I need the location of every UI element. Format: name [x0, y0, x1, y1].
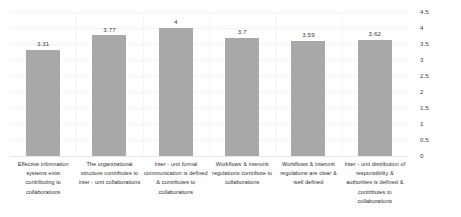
bar-value-label: 3.59	[302, 32, 314, 38]
axis-tick-label: 1.5	[420, 105, 429, 111]
bar-group: 3.62	[342, 12, 408, 156]
axis-tick-label: 4.5	[420, 9, 429, 15]
bar-group: 3.59	[275, 12, 341, 156]
bar-value-label: 3.77	[103, 27, 115, 33]
bar-group: 3.7	[209, 12, 275, 156]
gridline	[10, 156, 408, 157]
category-label: Workflows & interunit regulations contri…	[209, 160, 275, 188]
bar-value-label: 3.62	[369, 31, 381, 37]
bar-value-label: 4	[174, 19, 178, 25]
bar-group: 4	[143, 12, 209, 156]
category-label: The organizational structure contributes…	[76, 160, 142, 188]
axis-tick-label: 2	[420, 89, 423, 95]
category-label: Workflows & interunit regulations are cl…	[275, 160, 341, 188]
axis-tick-label: 3	[420, 57, 423, 63]
category-axis-labels: Effective information systems exist cont…	[10, 160, 408, 215]
category-label: Inter - unit formal communication is def…	[143, 160, 209, 197]
plot-area: 3.313.7743.73.593.62	[10, 12, 408, 156]
bars-container: 3.313.7743.73.593.62	[10, 12, 408, 156]
axis-tick-label: 2.5	[420, 73, 429, 79]
bar-chart: 3.313.7743.73.593.62 4.543.532.521.510.5…	[0, 0, 461, 217]
axis-tick-label: 4	[420, 25, 423, 31]
bar-value-label: 3.7	[238, 29, 247, 35]
axis-tick-label: 1	[420, 121, 423, 127]
value-axis: 4.543.532.521.510.50	[412, 12, 456, 156]
category-label: Inter - unit distribution of responsibil…	[342, 160, 408, 206]
axis-tick-label: 0.5	[420, 137, 429, 143]
bar[interactable]	[92, 35, 126, 156]
category-label: Effective information systems exist cont…	[10, 160, 76, 197]
bar[interactable]	[159, 28, 193, 156]
bar-value-label: 3.31	[37, 41, 49, 47]
bar[interactable]	[291, 41, 325, 156]
axis-tick-label: 0	[420, 153, 423, 159]
bar[interactable]	[225, 38, 259, 156]
bar-group: 3.31	[10, 12, 76, 156]
bar-group: 3.77	[76, 12, 142, 156]
bar[interactable]	[358, 40, 392, 156]
axis-tick-label: 3.5	[420, 41, 429, 47]
bar[interactable]	[26, 50, 60, 156]
